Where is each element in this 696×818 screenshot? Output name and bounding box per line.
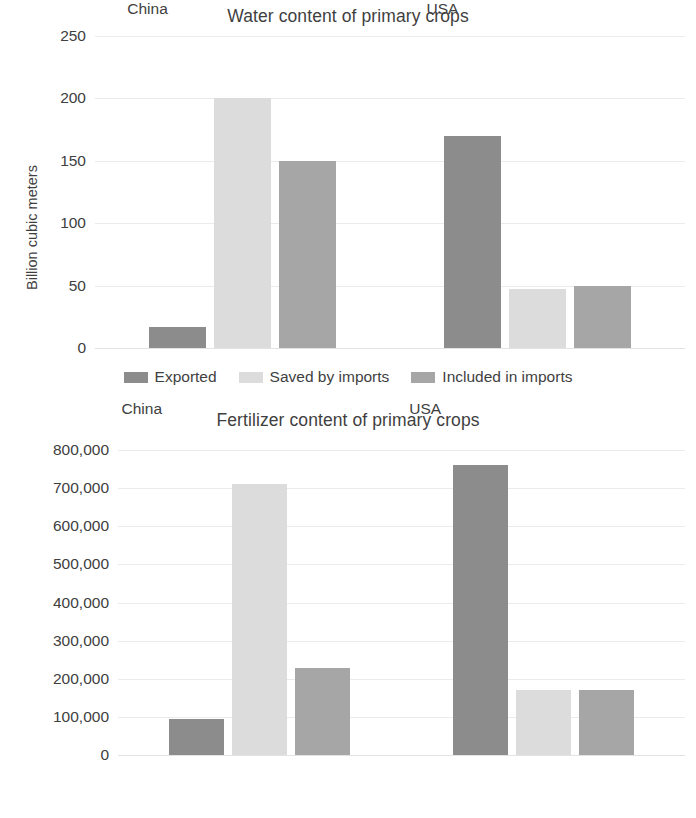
legend-item[interactable]: Saved by imports (239, 368, 390, 386)
bar (295, 668, 350, 755)
legend-item[interactable]: Included in imports (411, 368, 572, 386)
y-axis-tick-label: 100 (60, 215, 86, 231)
fertilizer-content-chart: Fertilizer content of primary crops Nitr… (0, 400, 696, 818)
gridline (118, 488, 685, 489)
water-legend: ExportedSaved by importsIncluded in impo… (0, 368, 696, 386)
y-axis-tick-label: 200,000 (53, 671, 109, 687)
y-axis-tick-label: 150 (60, 153, 86, 169)
legend-swatch-icon (411, 372, 435, 383)
bar (444, 136, 501, 348)
y-axis-tick-label: 800,000 (53, 442, 109, 458)
axis-baseline (95, 348, 685, 349)
water-content-chart: Water content of primary crops Billion c… (0, 0, 696, 400)
bar (453, 465, 508, 755)
x-axis-tick-label: China (127, 0, 168, 18)
bar (169, 719, 224, 755)
legend-item[interactable]: Exported (124, 368, 217, 386)
bar (279, 161, 336, 348)
legend-swatch-icon (124, 372, 148, 383)
y-axis-tick-label: 300,000 (53, 633, 109, 649)
y-axis-tick-label: 0 (77, 340, 86, 356)
y-axis-tick-label: 200 (60, 91, 86, 107)
axis-baseline (118, 755, 685, 756)
gridline (95, 36, 685, 37)
y-axis-tick-label: 500,000 (53, 557, 109, 573)
gridline (118, 641, 685, 642)
bar (509, 289, 566, 348)
gridline (95, 98, 685, 99)
x-axis-tick-label: USA (427, 0, 459, 18)
legend-label: Exported (155, 368, 217, 386)
bar (214, 98, 271, 348)
bar (516, 690, 571, 755)
water-plot-area: 050100150200250 (95, 36, 685, 348)
gridline (95, 223, 685, 224)
x-axis-tick-label: USA (409, 400, 441, 418)
bar (574, 286, 631, 348)
legend-label: Saved by imports (270, 368, 390, 386)
y-axis-tick-label: 100,000 (53, 709, 109, 725)
fertilizer-x-axis-ticks: ChinaUSA (0, 400, 567, 422)
y-axis-tick-label: 600,000 (53, 519, 109, 535)
y-axis-tick-label: 400,000 (53, 595, 109, 611)
y-axis-tick-label: 250 (60, 28, 86, 44)
gridline (118, 564, 685, 565)
legend-swatch-icon (239, 372, 263, 383)
gridline (118, 526, 685, 527)
chart-page: Water content of primary crops Billion c… (0, 0, 696, 818)
gridline (118, 679, 685, 680)
gridline (95, 161, 685, 162)
y-axis-tick-label: 0 (100, 747, 109, 763)
gridline (118, 450, 685, 451)
gridline (118, 603, 685, 604)
y-axis-tick-label: 700,000 (53, 480, 109, 496)
y-axis-tick-label: 50 (69, 278, 86, 294)
fertilizer-plot-area: 0100,000200,000300,000400,000500,000600,… (118, 450, 685, 755)
water-y-axis-label: Billion cubic meters (24, 165, 40, 290)
bar (149, 327, 206, 348)
bar (579, 690, 634, 755)
legend-label: Included in imports (442, 368, 572, 386)
water-x-axis-ticks: ChinaUSA (0, 0, 590, 22)
bar (232, 484, 287, 755)
x-axis-tick-label: China (122, 400, 163, 418)
